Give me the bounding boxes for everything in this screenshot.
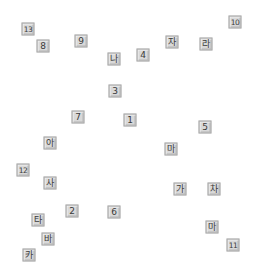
tile-7[interactable]: 7 bbox=[72, 111, 85, 124]
tile-na[interactable]: 나 bbox=[108, 53, 121, 66]
tile-sa[interactable]: 사 bbox=[44, 177, 57, 190]
tile-ga[interactable]: 가 bbox=[174, 183, 187, 196]
tile-ra[interactable]: 라 bbox=[200, 38, 213, 51]
tile-6[interactable]: 6 bbox=[108, 206, 121, 219]
tile-11[interactable]: 11 bbox=[227, 239, 240, 252]
tile-cha[interactable]: 차 bbox=[208, 183, 221, 196]
tile-ma[interactable]: 마 bbox=[165, 143, 178, 156]
tile-9[interactable]: 9 bbox=[75, 35, 88, 48]
tile-a[interactable]: 아 bbox=[44, 137, 57, 150]
tile-canvas: 13 8 9 나 4 자 라 10 3 7 1 5 아 마 12 사 가 차 2… bbox=[0, 0, 275, 274]
tile-4[interactable]: 4 bbox=[137, 49, 150, 62]
tile-1[interactable]: 1 bbox=[124, 114, 137, 127]
tile-2[interactable]: 2 bbox=[66, 205, 79, 218]
tile-ma-2[interactable]: 마 bbox=[206, 221, 219, 234]
tile-ka[interactable]: 카 bbox=[23, 249, 36, 262]
tile-8[interactable]: 8 bbox=[37, 40, 50, 53]
tile-13[interactable]: 13 bbox=[22, 23, 35, 36]
tile-ba[interactable]: 바 bbox=[42, 233, 55, 246]
tile-12[interactable]: 12 bbox=[17, 164, 30, 177]
tile-5[interactable]: 5 bbox=[199, 121, 212, 134]
tile-3[interactable]: 3 bbox=[109, 85, 122, 98]
tile-ja[interactable]: 자 bbox=[166, 36, 179, 49]
tile-10[interactable]: 10 bbox=[229, 16, 242, 29]
tile-ta[interactable]: 타 bbox=[32, 214, 45, 227]
